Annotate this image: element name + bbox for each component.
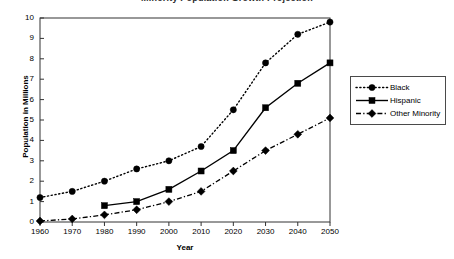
y-tick-label: 10 (18, 14, 34, 22)
y-tick-label: 9 (18, 34, 34, 42)
y-tick-label: 2 (18, 177, 34, 185)
data-point-marker (36, 217, 44, 225)
x-tick-label: 2020 (217, 228, 249, 236)
series-layer (36, 19, 334, 225)
y-tick-label: 5 (18, 116, 34, 124)
legend-item-hispanic[interactable]: Hispanic (355, 94, 440, 107)
data-point-marker (229, 167, 237, 175)
data-point-marker (262, 60, 268, 66)
legend-line-sample (355, 108, 389, 119)
y-tick-label: 6 (18, 96, 34, 104)
data-point-marker (197, 188, 205, 196)
legend-item-black[interactable]: Black (355, 81, 440, 94)
data-point-marker (133, 206, 141, 214)
y-tick-label: 3 (18, 157, 34, 165)
legend-label: Black (389, 83, 410, 92)
data-point-marker (295, 31, 301, 37)
x-tick-label: 1990 (121, 228, 153, 236)
data-point-marker (327, 60, 333, 66)
plot-frame (40, 18, 330, 222)
y-tick-label: 8 (18, 55, 34, 63)
legend-marker-icon (369, 84, 375, 90)
data-point-marker (198, 143, 204, 149)
legend-marker-icon (369, 98, 375, 104)
data-point-marker (134, 166, 140, 172)
data-point-marker (134, 199, 140, 205)
data-point-marker (263, 105, 269, 111)
y-tick-label: 1 (18, 198, 34, 206)
data-point-marker (230, 107, 236, 113)
x-axis-title: Year (40, 243, 330, 252)
data-point-marker (165, 198, 173, 206)
data-point-marker (101, 178, 107, 184)
series-line (40, 118, 330, 221)
x-tick-label: 2010 (185, 228, 217, 236)
chart-title: Minority Population Growth Projection (0, 0, 454, 3)
y-tick-label: 7 (18, 75, 34, 83)
x-tick-label: 1960 (24, 228, 56, 236)
x-tick-label: 1970 (56, 228, 88, 236)
legend-item-other-minority[interactable]: Other Minority (355, 107, 440, 120)
data-point-marker (166, 186, 172, 192)
data-point-marker (326, 114, 334, 122)
series-line (40, 22, 330, 197)
chart-legend: BlackHispanicOther Minority (350, 76, 446, 125)
data-point-marker (37, 194, 43, 200)
x-tick-label: 1980 (88, 228, 120, 236)
plot-area (0, 0, 454, 259)
data-point-marker (69, 188, 75, 194)
legend-line-sample (355, 82, 389, 93)
data-point-marker (262, 147, 270, 155)
line-chart: Minority Population Growth Projection Po… (0, 0, 454, 259)
x-tick-label: 2030 (250, 228, 282, 236)
series-black (37, 19, 333, 201)
data-point-marker (295, 80, 301, 86)
y-tick-label: 0 (18, 218, 34, 226)
x-tick-label: 2040 (282, 228, 314, 236)
legend-label: Other Minority (389, 109, 440, 118)
x-tick-label: 2000 (153, 228, 185, 236)
data-point-marker (166, 158, 172, 164)
axis-tick-marks (40, 18, 330, 226)
legend-marker-icon (368, 110, 376, 118)
y-tick-label: 4 (18, 136, 34, 144)
legend-label: Hispanic (389, 96, 421, 105)
data-point-marker (198, 168, 204, 174)
series-other-minority (36, 114, 334, 225)
data-point-marker (101, 211, 109, 219)
data-point-marker (327, 19, 333, 25)
data-point-marker (294, 130, 302, 138)
x-tick-label: 2050 (314, 228, 346, 236)
data-point-marker (101, 203, 107, 209)
legend-line-sample (355, 95, 389, 106)
data-point-marker (230, 148, 236, 154)
